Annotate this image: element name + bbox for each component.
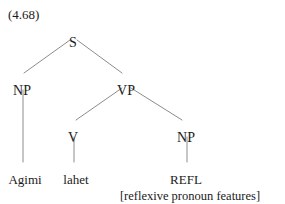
syntax-tree-figure: (4.68) S NP VP V NP Agimi lahet REFL [re… [0, 0, 285, 204]
node-np-subject: NP [13, 84, 31, 98]
node-np-object: NP [177, 131, 195, 145]
node-vp: VP [117, 84, 135, 98]
leaf-subject: Agimi [8, 173, 41, 186]
tree-branches [0, 0, 285, 204]
reflexive-features-annotation: [reflexive pronoun features] [120, 190, 260, 203]
leaf-verb: lahet [63, 173, 88, 186]
leaf-object: REFL [170, 173, 202, 186]
node-s: S [69, 36, 77, 50]
s-to-np-subject [24, 40, 70, 73]
s-to-vp [77, 40, 122, 73]
vp-to-np-object [131, 88, 182, 120]
vp-to-v [76, 88, 122, 120]
node-v: V [68, 131, 78, 145]
